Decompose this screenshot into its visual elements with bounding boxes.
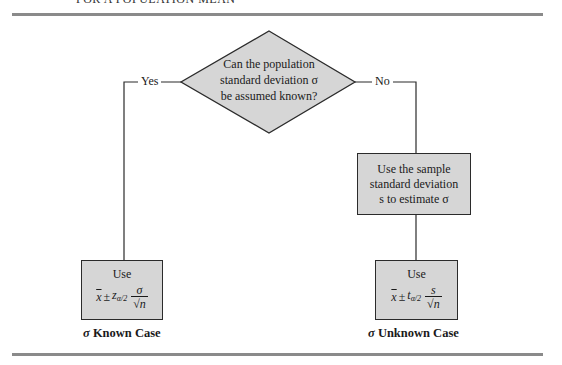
process-line-3: s to estimate σ [358, 192, 470, 207]
xbar-symbol: x [391, 290, 396, 305]
no-label: No [372, 74, 393, 89]
known-case-box: Use x ± zα/2 σ √n [81, 260, 163, 320]
unknown-fraction: s √n [425, 284, 442, 310]
unknown-case-caption: σ Unknown Case [368, 326, 459, 341]
use-sample-sd-box: Use the sample standard deviation s to e… [357, 153, 471, 215]
unknown-case-text: Unknown Case [378, 326, 459, 340]
sigma-symbol: σ [83, 326, 90, 340]
known-numerator: σ [134, 284, 146, 296]
known-fraction: σ √n [131, 284, 148, 310]
unknown-denominator: √n [425, 296, 442, 310]
n-variable: n [140, 297, 146, 311]
decision-line-2: standard deviation σ [200, 72, 338, 88]
xbar-symbol: x [96, 290, 101, 305]
no-connector [355, 82, 416, 153]
z-critical-value: zα/2 [112, 288, 127, 306]
process-line-2: standard deviation [358, 177, 470, 192]
decision-line-1: Can the population [200, 56, 338, 72]
t-subscript: α/2 [411, 294, 421, 303]
z-subscript: α/2 [117, 294, 127, 303]
plusminus-symbol: ± [104, 290, 111, 305]
known-denominator: √n [131, 296, 148, 310]
decision-question: Can the population standard deviation σ … [200, 56, 338, 104]
unknown-use-label: Use [376, 267, 457, 282]
yes-connector [124, 82, 181, 260]
sqrt-icon: √ [133, 297, 140, 311]
plusminus-symbol: ± [399, 290, 406, 305]
sigma-symbol: σ [368, 326, 375, 340]
sqrt-icon: √ [427, 297, 434, 311]
unknown-numerator: s [428, 284, 439, 296]
decision-line-3: be assumed known? [200, 88, 338, 104]
known-case-formula: x ± zα/2 σ √n [96, 284, 148, 310]
t-critical-value: tα/2 [407, 288, 421, 306]
yes-label: Yes [138, 74, 161, 89]
unknown-case-box: Use x ± tα/2 s √n [375, 260, 458, 320]
known-case-caption: σ Known Case [83, 326, 161, 341]
known-use-label: Use [82, 267, 162, 282]
known-case-text: Known Case [93, 326, 161, 340]
unknown-case-formula: x ± tα/2 s √n [391, 284, 441, 310]
n-variable: n [434, 297, 440, 311]
bottom-rule [12, 353, 543, 356]
process-line-1: Use the sample [358, 162, 470, 177]
